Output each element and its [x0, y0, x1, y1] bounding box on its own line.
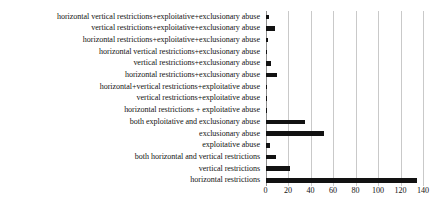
- plot-area: [266, 11, 424, 186]
- category-label: both exploitative and exclusionary abuse: [130, 118, 260, 126]
- bar-row: [266, 69, 424, 81]
- category-row: vertical restrictions+exploitative abuse: [0, 93, 263, 105]
- category-label: horizontal restrictions + exploitative a…: [124, 106, 260, 114]
- category-label: vertical restrictions: [199, 165, 260, 173]
- x-tick-label: 120: [394, 187, 406, 195]
- bar: [266, 155, 276, 160]
- category-row: vertical restrictions+exploitative+exclu…: [0, 23, 263, 35]
- bar-row: [266, 11, 424, 23]
- category-row: vertical restrictions: [0, 163, 263, 175]
- bar: [266, 15, 269, 20]
- category-label: exclusionary abuse: [199, 130, 260, 138]
- bar: [266, 50, 267, 55]
- bar: [266, 26, 275, 31]
- category-label: horizontal+vertical restrictions+exploit…: [100, 83, 260, 91]
- category-row: horizontal vertical restrictions+exclusi…: [0, 46, 263, 58]
- category-row: exploitative abuse: [0, 139, 263, 151]
- bar-row: [266, 128, 424, 140]
- bar: [266, 96, 267, 101]
- category-label: horizontal restrictions: [190, 176, 260, 184]
- x-tick-label: 60: [329, 187, 337, 195]
- x-tick-label: 140: [417, 187, 429, 195]
- category-row: horizontal restrictions+exploitative+exc…: [0, 34, 263, 46]
- bar: [266, 131, 325, 136]
- x-tick-label: 40: [306, 187, 314, 195]
- category-row: both horizontal and vertical restriction…: [0, 151, 263, 163]
- category-row: horizontal restrictions+exclusionary abu…: [0, 69, 263, 81]
- category-row: horizontal+vertical restrictions+exploit…: [0, 81, 263, 93]
- bar: [266, 120, 305, 125]
- bar-row: [266, 116, 424, 128]
- category-label: horizontal vertical restrictions+exclusi…: [99, 48, 260, 56]
- bar-row: [266, 104, 424, 116]
- bar-chart: horizontal vertical restrictions+exploit…: [0, 0, 445, 208]
- category-row: horizontal restrictions + exploitative a…: [0, 104, 263, 116]
- category-row: horizontal vertical restrictions+exploit…: [0, 11, 263, 23]
- bar-row: [266, 174, 424, 186]
- bar: [266, 38, 268, 43]
- value-axis-labels: 020406080100120140: [266, 187, 424, 203]
- x-tick-label: 20: [284, 187, 292, 195]
- category-label: exploitative abuse: [202, 141, 260, 149]
- category-row: both exploitative and exclusionary abuse: [0, 116, 263, 128]
- category-label: horizontal restrictions+exploitative+exc…: [83, 36, 260, 44]
- bar-row: [266, 46, 424, 58]
- bar-row: [266, 34, 424, 46]
- x-tick-label: 100: [372, 187, 384, 195]
- gridline: [423, 11, 424, 186]
- category-label: horizontal restrictions+exclusionary abu…: [125, 71, 260, 79]
- category-label: horizontal vertical restrictions+exploit…: [57, 13, 260, 21]
- bar-row: [266, 58, 424, 70]
- bar-row: [266, 23, 424, 35]
- category-row: exclusionary abuse: [0, 128, 263, 140]
- x-tick-label: 0: [263, 187, 267, 195]
- bar-row: [266, 81, 424, 93]
- category-label: vertical restrictions+exploitative+exclu…: [91, 24, 260, 32]
- category-label: both horizontal and vertical restriction…: [135, 153, 260, 161]
- category-row: vertical restrictions+exclusionary abuse: [0, 58, 263, 70]
- bar: [266, 166, 291, 171]
- bar-row: [266, 93, 424, 105]
- bars-layer: [266, 11, 424, 186]
- bar: [266, 61, 272, 66]
- bar: [266, 143, 270, 148]
- bar-row: [266, 151, 424, 163]
- bar-row: [266, 163, 424, 175]
- bar: [266, 108, 267, 113]
- x-tick-label: 80: [351, 187, 359, 195]
- category-axis-labels: horizontal vertical restrictions+exploit…: [0, 11, 263, 186]
- bar: [266, 85, 267, 90]
- bar: [266, 178, 418, 183]
- bar-row: [266, 139, 424, 151]
- category-label: vertical restrictions+exclusionary abuse: [133, 59, 260, 67]
- category-label: vertical restrictions+exploitative abuse: [137, 94, 260, 102]
- bar: [266, 73, 277, 78]
- category-row: horizontal restrictions: [0, 174, 263, 186]
